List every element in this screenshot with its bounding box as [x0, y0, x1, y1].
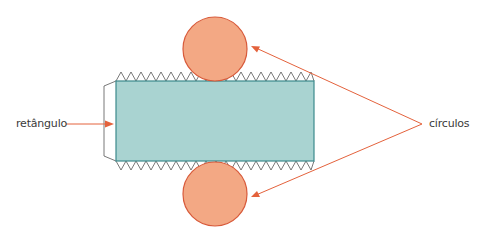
cylinder-net-diagram — [0, 0, 477, 240]
rectangle-shape — [116, 81, 314, 161]
top-circle — [183, 17, 247, 81]
rectangle-arrowhead-icon — [105, 121, 114, 128]
circles-label: círculos — [429, 117, 469, 130]
bottom-circle — [183, 162, 247, 226]
rectangle-label: retângulo — [16, 117, 67, 130]
